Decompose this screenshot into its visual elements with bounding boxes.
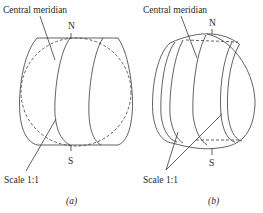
central-meridian-leader-b	[181, 16, 197, 58]
central-meridian-label-a: Central meridian	[3, 5, 67, 15]
top-arc	[170, 34, 240, 45]
bottom-arc	[172, 143, 218, 149]
north-label-a: N	[68, 21, 75, 31]
cylinder-left-edge	[20, 38, 37, 145]
outer-right-edge	[207, 34, 255, 148]
scale-label-b: Scale 1:1	[143, 175, 178, 185]
secant-right-2	[227, 45, 242, 141]
projection-diagram	[0, 0, 263, 213]
secant-left-2	[170, 40, 183, 143]
top-dashed-chord	[186, 40, 238, 42]
meridian-curve-right	[89, 38, 103, 145]
caption-b: (b)	[208, 196, 219, 206]
north-label-b: N	[209, 18, 216, 28]
central-meridian-curve	[55, 38, 70, 145]
globe-outline	[21, 38, 131, 146]
south-label-a: S	[68, 156, 73, 166]
caption-a: (a)	[66, 196, 77, 206]
scale-label-a: Scale 1:1	[4, 175, 39, 185]
panel-a-drawing	[20, 16, 133, 171]
south-label-b: S	[209, 158, 214, 168]
cylinder-right-edge	[118, 38, 132, 145]
panel-b-drawing	[153, 16, 256, 170]
secant-left-1	[161, 42, 177, 142]
outer-left-edge	[153, 43, 172, 143]
central-meridian-label-b: Central meridian	[143, 5, 207, 15]
